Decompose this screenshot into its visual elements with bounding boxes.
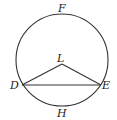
segment-le xyxy=(62,64,101,85)
label-h: H xyxy=(56,107,67,120)
label-d: D xyxy=(9,79,19,92)
segment-dl xyxy=(22,64,62,85)
geometry-diagram: F L D E H xyxy=(0,0,117,120)
label-f: F xyxy=(57,2,66,15)
label-l: L xyxy=(56,52,64,65)
label-e: E xyxy=(101,79,110,92)
